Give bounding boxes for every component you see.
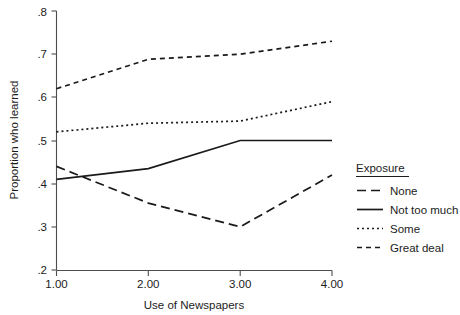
x-tick-label-0: 1.00 [45, 278, 67, 290]
y-tick-label-2: .4 [37, 178, 47, 190]
y-tick-label-5: .7 [37, 48, 47, 60]
legend-label-none: None [390, 185, 418, 197]
x-tick-label-1: 2.00 [137, 278, 159, 290]
y-tick-label-4: .6 [37, 91, 47, 103]
x-axis-title: Use of Newspapers [144, 299, 245, 311]
x-tick-label-3: 4.00 [321, 278, 343, 290]
legend-label-great-deal: Great deal [390, 242, 444, 254]
y-axis-title: Proportion who learned [8, 81, 20, 200]
legend-label-not-too-much: Not too much [390, 204, 458, 216]
y-tick-label-6: .8 [37, 6, 47, 18]
legend-label-some: Some [390, 223, 420, 235]
y-tick-label-0: .2 [37, 264, 47, 276]
line-chart: .2 .3 .4 .5 .6 .7 .8 Proportion who lear… [0, 0, 460, 315]
legend-title: Exposure [356, 162, 405, 174]
y-tick-label-1: .3 [37, 221, 47, 233]
chart-figure: .2 .3 .4 .5 .6 .7 .8 Proportion who lear… [0, 0, 460, 315]
chart-background [0, 0, 460, 315]
x-tick-label-2: 3.00 [229, 278, 251, 290]
y-tick-label-3: .5 [37, 135, 47, 147]
